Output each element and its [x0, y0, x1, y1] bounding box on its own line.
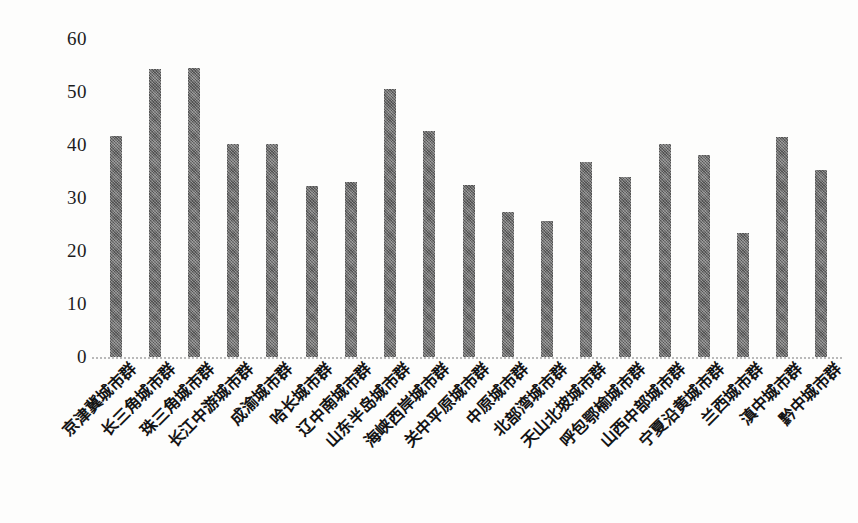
bar [659, 144, 671, 357]
bar [188, 68, 200, 357]
bar [698, 155, 710, 357]
bar [306, 186, 318, 357]
bar [737, 233, 749, 357]
bar [110, 136, 122, 357]
bar [815, 170, 827, 357]
y-axis-tick-20: 20 [67, 240, 87, 262]
bar [423, 131, 435, 357]
y-axis-tick-30: 30 [67, 187, 87, 209]
chart-page: 6050403020100 京津冀城市群长三角城市群珠三角城市群长江中游城市群成… [0, 0, 858, 523]
y-axis-tick-0: 0 [77, 346, 87, 368]
y-axis-tick-50: 50 [67, 81, 87, 103]
bar [541, 221, 553, 357]
y-axis-tick-40: 40 [67, 134, 87, 156]
bar [345, 182, 357, 357]
bar [502, 212, 514, 357]
bar [776, 137, 788, 357]
bar [619, 177, 631, 357]
bar [266, 144, 278, 357]
x-axis-category-labels: 京津冀城市群长三角城市群珠三角城市群长江中游城市群成渝城市群哈长城市群辽中南城市… [96, 360, 841, 523]
bar [384, 89, 396, 357]
y-axis-tick-10: 10 [67, 293, 87, 315]
bar [463, 185, 475, 357]
bar [149, 69, 161, 357]
plot-area: 6050403020100 [96, 39, 841, 357]
bar-series [96, 39, 841, 357]
y-axis-tick-60: 60 [67, 28, 87, 50]
bar [580, 162, 592, 357]
bar [227, 144, 239, 357]
